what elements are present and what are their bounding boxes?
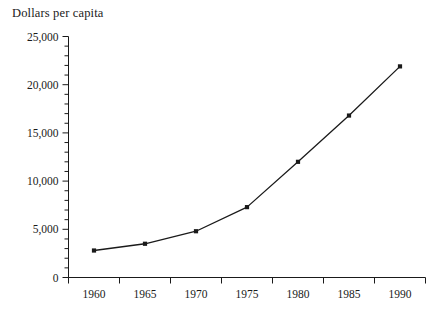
data-point-marker <box>398 64 402 68</box>
x-axis-tick-label: 1970 <box>185 288 208 300</box>
data-point-marker <box>92 248 96 252</box>
data-point-marker <box>296 160 300 164</box>
data-point-marker <box>194 229 198 233</box>
x-axis-tick-label: 1980 <box>287 288 310 300</box>
y-axis-tick-label: 0 <box>53 272 59 284</box>
y-axis-tick-label: 25,000 <box>27 31 59 44</box>
y-axis-tick-label: 15,000 <box>27 127 59 140</box>
data-point-marker <box>143 242 147 246</box>
data-series-line <box>94 66 400 250</box>
chart-container: Dollars per capita 05,00010,00015,00020,… <box>0 0 446 316</box>
y-axis-tick-label: 10,000 <box>27 175 59 188</box>
x-axis-tick-label: 1985 <box>338 288 361 300</box>
x-axis-tick-label: 1960 <box>83 288 106 300</box>
y-axis-tick-label: 5,000 <box>33 223 59 236</box>
y-axis-tick-label: 20,000 <box>27 79 59 92</box>
x-axis-tick-label: 1990 <box>389 288 412 300</box>
line-chart-plot: 05,00010,00015,00020,00025,0001960196519… <box>0 0 446 316</box>
x-axis-tick-label: 1975 <box>236 288 259 300</box>
data-point-marker <box>245 205 249 209</box>
x-axis-tick-label: 1965 <box>134 288 157 300</box>
data-point-marker <box>347 113 351 117</box>
